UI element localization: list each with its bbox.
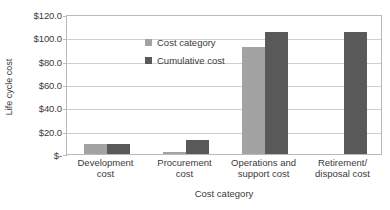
x-axis-label-line: Development [66, 157, 145, 168]
bar [186, 140, 209, 154]
x-axis-label-line: Procurement [145, 157, 224, 168]
x-axis-category-label: Operations andsupport cost [224, 157, 303, 179]
y-axis-tick-label: $120.0 [34, 10, 62, 21]
x-axis-title: Cost category [66, 188, 382, 199]
y-axis-tick-label: $100.0 [34, 33, 62, 44]
x-axis-category-labels: DevelopmentcostProcurementcostOperations… [66, 157, 382, 185]
legend-label: Cost category [157, 37, 216, 48]
x-axis-label-line: Retirement/ [303, 157, 382, 168]
x-axis-label-line: cost [145, 168, 224, 179]
y-axis-title-text: Life cycle cost [4, 59, 14, 116]
bar-group [67, 16, 146, 154]
x-axis-label-line: cost [66, 168, 145, 179]
x-axis-category-label: Procurementcost [145, 157, 224, 179]
bar [265, 32, 288, 155]
x-axis-label-line: support cost [224, 168, 303, 179]
bar [84, 144, 107, 155]
y-axis-tick-labels: $-$20.0$40.0$60.0$80.0$100.0$120.0 [16, 10, 64, 155]
legend-swatch-icon [145, 57, 152, 64]
x-axis-category-label: Developmentcost [66, 157, 145, 179]
legend-item-cost-category: Cost category [145, 35, 225, 49]
y-axis-tick-label: $- [54, 150, 62, 161]
y-axis-tickmark [63, 155, 67, 156]
x-axis-category-label: Retirement/disposal cost [303, 157, 382, 179]
legend: Cost category Cumulative cost [145, 35, 225, 71]
y-axis-title: Life cycle cost [2, 32, 16, 142]
y-axis-tick-label: $80.0 [39, 56, 62, 67]
y-axis-tick-label: $20.0 [39, 126, 62, 137]
bar [163, 152, 186, 154]
legend-swatch-icon [145, 39, 152, 46]
bar-chart: Life cycle cost $-$20.0$40.0$60.0$80.0$1… [0, 0, 390, 210]
bar [107, 144, 130, 155]
bar-group [304, 16, 383, 154]
bar [344, 32, 367, 155]
legend-label: Cumulative cost [157, 55, 225, 66]
legend-item-cumulative-cost: Cumulative cost [145, 53, 225, 67]
y-axis-tick-label: $60.0 [39, 80, 62, 91]
bar-group [225, 16, 304, 154]
plot-area: Cost category Cumulative cost [66, 15, 382, 155]
x-axis-label-line: Operations and [224, 157, 303, 168]
x-axis-label-line: disposal cost [303, 168, 382, 179]
bar [242, 47, 265, 154]
y-axis-tick-label: $40.0 [39, 103, 62, 114]
